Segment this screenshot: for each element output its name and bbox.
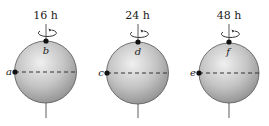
- sphere-16h: 16 h b a: [6, 9, 76, 118]
- sphere-48h: 48 h f e: [190, 9, 259, 118]
- pole-point-label: d: [135, 46, 141, 57]
- pole-point: [135, 39, 140, 44]
- equator-point-label: a: [6, 66, 12, 77]
- diagram-canvas: 16 h b a 24 h d c 48 h f e: [0, 0, 269, 126]
- pole-point: [43, 38, 48, 43]
- period-label: 48 h: [217, 9, 242, 22]
- arrowhead-icon: [141, 30, 145, 33]
- equator-point: [12, 69, 17, 74]
- equator-point: [196, 70, 201, 75]
- period-label: 16 h: [33, 9, 58, 22]
- pole-point: [226, 39, 231, 44]
- period-label: 24 h: [125, 9, 150, 22]
- equator-point: [104, 70, 109, 75]
- rotation-arrow-icon: [221, 31, 239, 38]
- pole-point-label: b: [43, 45, 49, 56]
- equator-point-label: e: [190, 67, 196, 78]
- equator-point-label: c: [98, 67, 104, 78]
- arrowhead-icon: [49, 29, 53, 32]
- arrowhead-icon: [232, 30, 236, 33]
- rotation-arrow-icon: [130, 31, 148, 38]
- sphere-24h: 24 h d c: [98, 9, 168, 118]
- rotation-arrow-icon: [38, 30, 56, 37]
